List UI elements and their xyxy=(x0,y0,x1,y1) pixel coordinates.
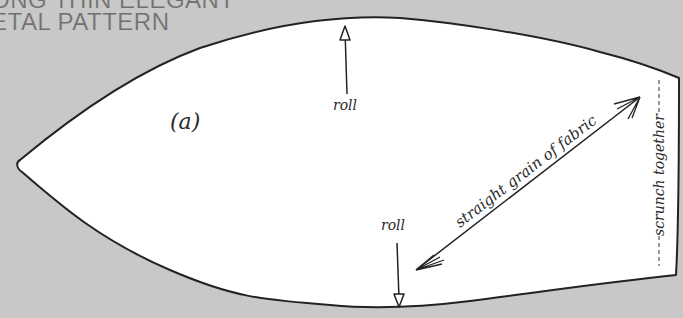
roll-top-label: roll xyxy=(333,97,357,113)
scrunch-label: scrunch together xyxy=(651,113,667,236)
pattern-title: ONG THIN ELEGANT ETAL PATTERN xyxy=(0,0,235,33)
petal-outline xyxy=(17,17,679,307)
pattern-title-line-2: ETAL PATTERN xyxy=(0,11,235,33)
roll-bottom-label: roll xyxy=(381,217,405,233)
piece-label: (a) xyxy=(170,109,200,134)
pattern-piece-diagram: roll (a) straight grain of fabric roll s… xyxy=(0,0,683,318)
